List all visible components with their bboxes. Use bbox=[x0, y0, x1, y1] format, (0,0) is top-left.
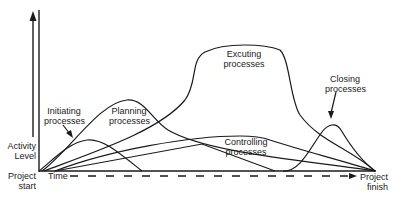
x-axis-label: Time bbox=[48, 171, 68, 181]
time-dashed-arrow-icon bbox=[70, 173, 357, 179]
planning-label-line2: processes bbox=[109, 116, 149, 126]
executing-curve bbox=[44, 45, 375, 171]
executing-label-line2: processes bbox=[222, 59, 266, 69]
executing-label: Excuting processes bbox=[222, 49, 266, 69]
project-start-label: Project start bbox=[2, 171, 36, 191]
closing-label: Closing processes bbox=[325, 74, 365, 94]
controlling-label-line2: processes bbox=[222, 147, 270, 157]
diagram-canvas bbox=[0, 0, 404, 198]
closing-pointer-arrow-icon bbox=[328, 92, 336, 119]
initiating-label: Initiating processes bbox=[44, 106, 84, 126]
initiating-curve bbox=[39, 140, 142, 171]
planning-curve bbox=[42, 100, 375, 171]
initiating-pointer-arrow-icon bbox=[63, 125, 73, 138]
project-finish-label: Project finish bbox=[356, 172, 388, 192]
closing-label-line2: processes bbox=[325, 84, 365, 94]
process-groups-diagram: Activity Level Project start Time Projec… bbox=[0, 0, 404, 198]
y-axis-label-line1: Activity bbox=[2, 141, 36, 151]
project-start-line2: start bbox=[2, 181, 36, 191]
y-axis-label: Activity Level bbox=[2, 141, 36, 161]
controlling-curve bbox=[55, 136, 375, 171]
initiating-label-line2: processes bbox=[44, 116, 84, 126]
activity-level-arrow-icon bbox=[30, 11, 37, 137]
executing-label-line1: Excuting bbox=[222, 49, 266, 59]
planning-label: Planning processes bbox=[109, 106, 149, 126]
project-finish-line1: Project bbox=[356, 172, 388, 182]
project-start-line1: Project bbox=[2, 171, 36, 181]
closing-label-line1: Closing bbox=[325, 74, 365, 84]
controlling-label-line1: Controlling bbox=[222, 137, 270, 147]
project-finish-line2: finish bbox=[356, 182, 388, 192]
y-axis-label-line2: Level bbox=[2, 151, 36, 161]
planning-label-line1: Planning bbox=[109, 106, 149, 116]
initiating-label-line1: Initiating bbox=[44, 106, 84, 116]
controlling-label: Controlling processes bbox=[222, 137, 270, 157]
